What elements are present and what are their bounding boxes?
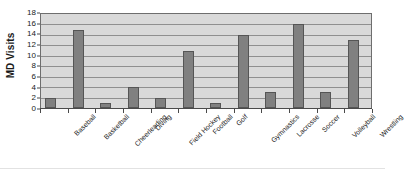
x-category-label: Basketball (103, 113, 131, 141)
bar[interactable] (183, 51, 194, 108)
bar-slot (261, 14, 289, 108)
bar-slot (316, 14, 344, 108)
bar-slot (289, 14, 317, 108)
y-tick-label: 8 (32, 62, 36, 70)
bar[interactable] (348, 40, 359, 108)
bar[interactable] (265, 92, 276, 108)
x-category-label: Wrestling (378, 113, 404, 139)
y-tick-label: 2 (32, 94, 36, 102)
bar[interactable] (73, 30, 84, 108)
bottom-divider (0, 168, 385, 169)
y-tick-label: 12 (27, 41, 36, 49)
x-category-label: Soccer (321, 113, 342, 134)
y-tick-label: 18 (27, 9, 36, 17)
y-axis-title: MD Visits (0, 0, 22, 110)
x-category-label: Gymnastics (270, 113, 302, 145)
bar[interactable] (155, 98, 166, 108)
bar-slot (124, 14, 152, 108)
y-tick-label: 0 (32, 105, 36, 113)
bar-slot (179, 14, 207, 108)
x-category-label: Volleyball (351, 113, 378, 140)
bar-slot (234, 14, 262, 108)
x-category-label: Baseball (73, 113, 98, 138)
bar-slot (69, 14, 97, 108)
bar[interactable] (128, 87, 139, 108)
y-axis-title-text: MD Visits (6, 32, 17, 78)
bar[interactable] (320, 92, 331, 108)
x-category-label: Golf (235, 113, 250, 128)
bars-container (41, 14, 371, 108)
bar[interactable] (238, 35, 249, 108)
plot-area (40, 13, 372, 109)
y-tick-label: 14 (27, 30, 36, 38)
x-axis-category-labels: BaseballBasketballCheerleadingDivingFiel… (40, 113, 372, 163)
bar-slot (41, 14, 69, 108)
bar[interactable] (293, 24, 304, 108)
y-axis-tick-labels: 024681012141618 (20, 9, 38, 113)
y-tick-label: 10 (27, 52, 36, 60)
y-tick-label: 6 (32, 73, 36, 81)
y-tick-label: 4 (32, 84, 36, 92)
x-category-label: Diving (154, 113, 173, 132)
bar[interactable] (45, 98, 56, 108)
bar-slot (151, 14, 179, 108)
bar-slot (344, 14, 372, 108)
bar-slot (206, 14, 234, 108)
y-tick-label: 16 (27, 20, 36, 28)
bar-slot (96, 14, 124, 108)
